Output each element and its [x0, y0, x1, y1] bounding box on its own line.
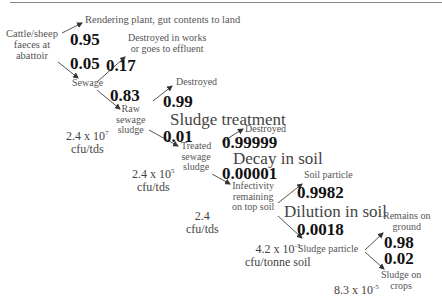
prob-destroyed-works: 0.17	[106, 57, 136, 75]
prob-to-sludge-particle: 0.0018	[297, 221, 344, 239]
node-rendering: Rendering plant, gut contents to land	[85, 14, 240, 25]
node-soil-particle: Soil particle	[304, 170, 353, 181]
conc-sludge-on-crops: 8.3 x 10-5	[334, 284, 379, 297]
node-sewage: Sewage	[72, 78, 103, 89]
node-treated-sludge: Treated sewage sludge	[181, 141, 211, 173]
node-destroyed-1: Destroyed	[176, 77, 217, 88]
prob-to-rendering: 0.95	[70, 31, 100, 49]
node-sludge-particle: Sludge particle	[298, 244, 358, 255]
node-infectivity: Infectivity remaining on top soil	[232, 181, 274, 213]
conc-raw-sludge: 2.4 x 107 cfu/tds	[66, 130, 109, 155]
arrow-sludge-on-crops	[365, 252, 384, 269]
node-destroyed-works: Destroyed in works or goes to effluent	[128, 33, 206, 54]
conc-treated-sludge: 2.4 x 105 cfu/tds	[132, 168, 175, 193]
prob-sludge-on-crops: 0.02	[384, 250, 414, 268]
arrow-remains-ground	[365, 233, 383, 250]
node-raw-sludge: Raw sewage sludge	[116, 104, 145, 136]
prob-sludge-destroyed: 0.99	[163, 93, 193, 111]
prob-to-sewage: 0.05	[70, 55, 100, 73]
node-sludge-crops: Sludge on crops	[381, 270, 421, 291]
node-source: Cattle/sheep faeces at abattoir	[6, 28, 58, 61]
node-remains-ground: Remains on ground	[383, 211, 431, 232]
prob-to-soil-particle: 0.9982	[297, 184, 344, 202]
stage-dilution-in-soil: Dilution in soil	[284, 203, 387, 221]
conc-top-soil: 2.4 cfu/tds	[186, 210, 219, 235]
